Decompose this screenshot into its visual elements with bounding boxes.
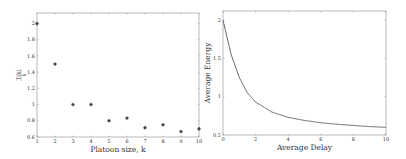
x-tick-label: 8 [161,138,164,144]
x-tick-label: 10 [196,138,202,144]
x-axis-label: Average Delay [276,143,333,152]
y-tick-label: 1 [32,101,35,107]
data-point [54,63,57,66]
y-tick-label: 1.4 [27,69,35,75]
x-axis-label: Platoon size, k [90,145,146,154]
data-point [72,103,75,106]
x-tick-label: 7 [143,138,146,144]
plot-frame [223,11,386,135]
data-point [180,130,183,133]
y-tick-label: 0.8 [27,117,35,123]
y-tick-label: 2 [32,20,35,26]
data-point [108,119,111,122]
data-point [144,126,147,129]
left-scatter-plot: 123456789100.60.811.21.41.61.82Platoon s… [15,13,203,154]
y-tick-label: 1.6 [27,53,35,59]
x-tick-label: 0 [221,136,224,142]
x-tick-label: 6 [319,136,322,142]
data-point [198,127,201,130]
y-tick-label: 2 [218,17,221,23]
chart-figure: 123456789100.60.811.21.41.61.82Platoon s… [0,0,406,159]
x-tick-label: 5 [107,138,110,144]
x-tick-label: 2 [53,138,56,144]
data-point [162,123,165,126]
x-tick-label: 8 [352,136,355,142]
x-tick-label: 4 [287,136,290,142]
x-tick-label: 6 [125,138,128,144]
data-point [90,103,93,106]
data-point [126,117,129,120]
y-label-numerator: T(k) [15,70,21,80]
x-tick-label: 3 [71,138,74,144]
y-tick-label: 1.5 [213,55,221,61]
y-tick-label: 0.6 [27,134,35,140]
y-tick-label: 0.5 [213,132,221,138]
right-line-plot: 02468100.511.52Average DelayAverage Ener… [203,11,389,152]
y-label-denominator: k [21,73,27,76]
plot-frame [37,13,199,137]
y-tick-label: 1.2 [27,85,35,91]
x-tick-label: 10 [383,136,389,142]
x-tick-label: 1 [35,138,38,144]
data-point [36,22,39,25]
x-tick-label: 9 [179,138,182,144]
y-axis-label: T(k)k [15,69,28,81]
x-tick-label: 2 [254,136,257,142]
y-tick-label: 1 [218,93,221,99]
energy-delay-curve [223,20,386,127]
y-tick-label: 1.8 [27,36,35,42]
x-tick-label: 4 [89,138,92,144]
y-axis-label: Average Energy [203,42,212,105]
